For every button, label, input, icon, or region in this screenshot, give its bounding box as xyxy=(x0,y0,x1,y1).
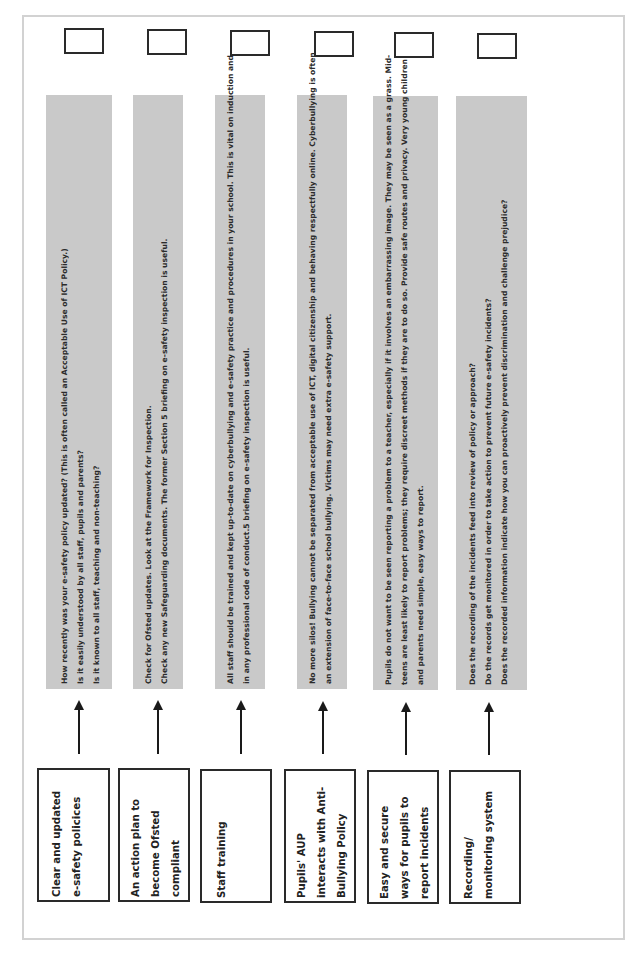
label-line: report incidents xyxy=(415,796,435,899)
label-text-row-1: Clear and updated e-safety policices xyxy=(47,791,87,897)
checkbox-row-1[interactable] xyxy=(64,28,104,54)
detail-line: Pupils do not want to be seen reporting … xyxy=(381,55,397,685)
label-box-row-3: Staff training xyxy=(200,769,272,903)
label-line: Easy and secure xyxy=(375,796,395,899)
detail-line: Does the recording of the incidents feed… xyxy=(465,200,481,685)
label-text-row-3: Staff training xyxy=(212,822,232,898)
checkbox-row-2[interactable] xyxy=(147,29,187,55)
detail-line: Is it easily understood by all staff, pu… xyxy=(73,248,89,684)
detail-line: and parents need simple, easy ways to re… xyxy=(413,55,429,685)
label-line: monitoring system xyxy=(479,791,499,899)
checkbox-row-6[interactable] xyxy=(477,33,517,59)
label-line: become Ofsted xyxy=(146,799,166,897)
detail-line: Do the records get monitored in order to… xyxy=(481,200,497,685)
label-box-row-6: Recording/ monitoring system xyxy=(449,770,521,904)
checkbox-row-3[interactable] xyxy=(230,30,270,56)
detail-panel-row-2: Check for Ofsted updates. Look at the Fr… xyxy=(133,95,183,689)
arrow-shaft xyxy=(78,708,80,754)
arrow-shaft xyxy=(157,708,159,754)
arrow-shaft xyxy=(240,708,242,754)
detail-line: Is it known to all staff, teaching and n… xyxy=(89,248,105,684)
detail-line: Check any new Safeguarding documents. Th… xyxy=(157,239,173,684)
label-box-row-1: Clear and updated e-safety policices xyxy=(37,768,110,902)
label-text-row-6: Recording/ monitoring system xyxy=(459,791,499,899)
label-line: Staff training xyxy=(212,822,232,898)
label-text-row-2: An action plan to become Ofsted complian… xyxy=(126,799,186,897)
label-line: interacts with Anti- xyxy=(312,787,332,898)
label-line: e-safety policices xyxy=(67,791,87,897)
label-line: Bullying Policy xyxy=(332,787,352,898)
label-line: ways for pupils to xyxy=(395,796,415,899)
detail-text-row-3: All staff should be trained and kept up-… xyxy=(223,55,255,684)
arrow-shaft xyxy=(405,710,407,755)
detail-line: Does the recorded information indicate h… xyxy=(497,200,513,685)
arrow-shaft xyxy=(322,709,324,754)
detail-text-row-4: No more silos! Bullying cannot be separa… xyxy=(305,52,337,684)
label-line: Recording/ xyxy=(459,791,479,899)
detail-line: Check for Ofsted updates. Look at the Fr… xyxy=(141,239,157,684)
detail-panel-row-3: All staff should be trained and kept up-… xyxy=(215,95,265,689)
label-text-row-4: Pupils' AUP interacts with Anti- Bullyin… xyxy=(292,787,352,898)
detail-panel-row-1: How recently was your e-safety policy up… xyxy=(46,95,112,689)
label-line: compliant xyxy=(166,799,186,897)
label-text-row-5: Easy and secure ways for pupils to repor… xyxy=(375,796,435,899)
label-line: Pupils' AUP xyxy=(292,787,312,898)
detail-panel-row-5: Pupils do not want to be seen reporting … xyxy=(373,96,438,690)
label-line: An action plan to xyxy=(126,799,146,897)
label-box-row-4: Pupils' AUP interacts with Anti- Bullyin… xyxy=(284,769,356,903)
detail-line: in any professional code of conduct.5 br… xyxy=(239,55,255,684)
detail-line: All staff should be trained and kept up-… xyxy=(223,55,239,684)
arrow-shaft xyxy=(488,710,490,755)
detail-text-row-6: Does the recording of the incidents feed… xyxy=(465,200,513,685)
detail-line: teens are least likely to report problem… xyxy=(397,55,413,685)
label-box-row-2: An action plan to become Ofsted complian… xyxy=(118,768,190,902)
detail-text-row-1: How recently was your e-safety policy up… xyxy=(57,248,105,684)
detail-panel-row-4: No more silos! Bullying cannot be separa… xyxy=(297,95,347,689)
detail-text-row-5: Pupils do not want to be seen reporting … xyxy=(381,55,429,685)
detail-line: an extension of face-to-face school bull… xyxy=(321,52,337,684)
detail-text-row-2: Check for Ofsted updates. Look at the Fr… xyxy=(141,239,173,684)
label-line: Clear and updated xyxy=(47,791,67,897)
detail-line: How recently was your e-safety policy up… xyxy=(57,248,73,684)
label-box-row-5: Easy and secure ways for pupils to repor… xyxy=(367,770,439,904)
detail-line: No more silos! Bullying cannot be separa… xyxy=(305,52,321,684)
detail-panel-row-6: Does the recording of the incidents feed… xyxy=(456,96,527,690)
